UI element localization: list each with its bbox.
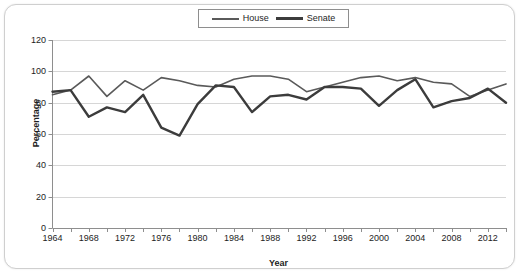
legend-item-house[interactable]: House: [212, 14, 269, 23]
axis-ticks: [49, 41, 507, 233]
y-tick-label: 100: [12, 66, 46, 76]
y-axis-title: Percentage: [31, 78, 41, 168]
x-tick-label: 1992: [286, 233, 326, 243]
x-tick-label: 2008: [432, 233, 472, 243]
legend-item-senate[interactable]: Senate: [276, 14, 336, 23]
x-axis-title: Year: [52, 258, 505, 268]
x-tick-label: 1972: [105, 233, 145, 243]
gridlines: [53, 41, 507, 198]
x-tick-label: 1976: [141, 233, 181, 243]
legend-label-senate: Senate: [307, 14, 336, 23]
series-line-senate: [53, 79, 507, 135]
x-tick-label: 1968: [69, 233, 109, 243]
x-tick-label: 1964: [33, 233, 73, 243]
series-paths: [53, 76, 507, 136]
legend-label-house: House: [243, 14, 269, 23]
x-tick-label: 2000: [359, 233, 399, 243]
chart-legend: House Senate: [198, 9, 349, 28]
y-tick-label: 120: [12, 35, 46, 45]
x-axis-tick-labels: 1964196819721976198019841988199219962000…: [0, 233, 525, 249]
x-tick-label: 1984: [214, 233, 254, 243]
y-tick-label: 20: [12, 192, 46, 202]
legend-swatch-house-icon: [212, 18, 239, 20]
series-line-house: [53, 76, 507, 96]
x-tick-label: 1988: [250, 233, 290, 243]
y-tick-label: 0: [12, 223, 46, 233]
x-tick-label: 1980: [178, 233, 218, 243]
x-tick-label: 2004: [395, 233, 435, 243]
x-tick-label: 1996: [323, 233, 363, 243]
x-tick-label: 2012: [468, 233, 508, 243]
legend-swatch-senate-icon: [276, 17, 303, 20]
